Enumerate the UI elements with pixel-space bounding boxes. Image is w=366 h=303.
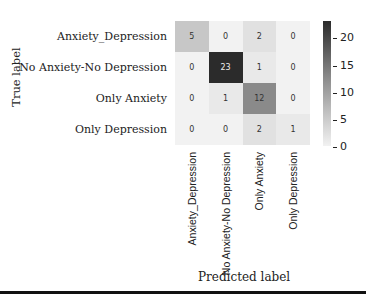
- x-tick-label: Only Depression: [287, 152, 299, 230]
- heatmap-cell: 2: [243, 21, 277, 52]
- y-tick-label: Anxiety_Depression: [57, 21, 167, 52]
- heatmap-cell: 0: [209, 114, 243, 145]
- y-tick-label: Only Anxiety: [96, 83, 167, 114]
- heatmap-cell: 0: [276, 52, 310, 83]
- colorbar: [323, 21, 331, 146]
- colorbar-tick: 15: [333, 60, 354, 72]
- divider-rule: [0, 291, 366, 294]
- heatmap-cell: 0: [276, 83, 310, 114]
- heatmap-cell: 0: [276, 21, 310, 52]
- x-tick-label: Anxiety_Depression: [186, 152, 198, 245]
- x-axis-title: Predicted label: [198, 270, 290, 284]
- heatmap-cell: 0: [175, 114, 209, 145]
- heatmap-cell: 1: [276, 114, 310, 145]
- colorbar-tick: 10: [333, 87, 354, 99]
- heatmap-cell: 2: [243, 114, 277, 145]
- heatmap-cell: 1: [243, 52, 277, 83]
- heatmap-cell: 5: [175, 21, 209, 52]
- heatmap-cell: 1: [209, 83, 243, 114]
- colorbar-tick: 0: [333, 141, 347, 153]
- y-tick-label: No Anxiety-No Depression: [19, 52, 167, 83]
- colorbar-tick: 5: [333, 114, 347, 126]
- heatmap-cell: 0: [175, 52, 209, 83]
- heatmap-cell: 12: [243, 83, 277, 114]
- y-tick-label: Only Depression: [75, 114, 167, 145]
- x-tick-label: No Anxiety-No Depression: [220, 152, 232, 275]
- heatmap-cell: 0: [209, 21, 243, 52]
- x-tick-label: Only Anxiety: [253, 152, 265, 210]
- heatmap-cell: 0: [175, 83, 209, 114]
- confusion-matrix-heatmap: 502002310011200021: [175, 21, 310, 145]
- heatmap-cell: 23: [209, 52, 243, 83]
- colorbar-tick: 20: [333, 32, 354, 44]
